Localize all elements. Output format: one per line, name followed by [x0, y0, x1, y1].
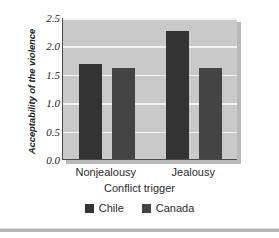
- legend-swatch-icon: [85, 204, 94, 213]
- bar-chart-figure: Acceptability of the violence 0.00.51.01…: [0, 0, 279, 238]
- y-axis-tick-labels: 0.00.51.01.52.02.5: [30, 14, 60, 161]
- x-axis-title: Conflict trigger: [0, 182, 279, 194]
- x-tick-label: Nonjealousy: [75, 166, 136, 178]
- legend-label: Canada: [156, 202, 195, 214]
- y-tick-label: 1.0: [30, 97, 60, 109]
- y-tick-label: 0.5: [30, 126, 60, 138]
- y-tick-label: 2.0: [30, 40, 60, 52]
- plot-area: [62, 18, 237, 160]
- bar: [199, 68, 222, 159]
- legend-item: Chile: [85, 202, 124, 214]
- y-tick-label: 1.5: [30, 69, 60, 81]
- bar: [112, 68, 135, 159]
- chart-legend: ChileCanada: [0, 202, 279, 214]
- legend-swatch-icon: [142, 204, 151, 213]
- y-tick-label: 2.5: [30, 12, 60, 24]
- bar: [79, 64, 102, 159]
- bar: [166, 31, 189, 159]
- bar-series-group: [63, 18, 237, 159]
- legend-label: Chile: [99, 202, 124, 214]
- legend-item: Canada: [142, 202, 195, 214]
- bottom-divider: [0, 228, 279, 232]
- y-tick-label: 0.0: [30, 154, 60, 166]
- x-tick-label: Jealousy: [172, 166, 215, 178]
